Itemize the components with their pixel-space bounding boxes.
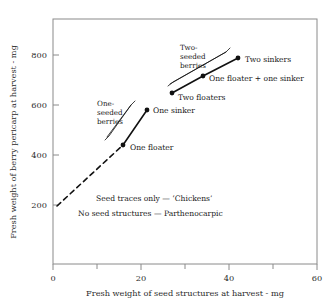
x-tick-label-40: 40 [224, 273, 234, 283]
bracket-label-two-seeded-line1: Two- [180, 43, 198, 52]
y-tick-label-400: 400 [31, 150, 47, 160]
point-two-floaters [170, 91, 175, 96]
scatter-chart: 800 600 400 200 0 20 40 60 Fresh weight … [0, 0, 325, 308]
point-one-floater [121, 143, 126, 148]
note-seed-traces: Seed traces only — ‘Chickens’ [96, 194, 212, 203]
bracket-label-two-seeded-line2: seeded [180, 52, 206, 61]
label-one-floater-one-sinker: One floater + one sinker [209, 74, 304, 83]
x-tick-label-0: 0 [50, 273, 55, 283]
point-one-floater-one-sinker [201, 74, 206, 79]
bracket-label-one-seeded-line3: berries [97, 117, 123, 126]
one-seeded-series-line [123, 110, 147, 145]
label-two-sinkers: Two sinkers [245, 55, 291, 64]
x-axis-title: Fresh weight of seed structures at harve… [86, 288, 284, 298]
y-tick-label-200: 200 [31, 200, 47, 210]
bracket-label-two-seeded-line3: berries [180, 61, 206, 70]
y-tick-label-600: 600 [31, 100, 47, 110]
note-parthenocarpic: No seed structures — Parthenocarpic [78, 209, 223, 218]
bracket-label-one-seeded-line1: One- [97, 99, 115, 108]
bracket-label-one-seeded-line2: seeded [97, 108, 123, 117]
point-one-sinker [145, 108, 150, 113]
x-tick-label-20: 20 [136, 273, 146, 283]
label-one-floater: One floater [130, 143, 174, 152]
label-two-floaters: Two floaters [178, 93, 226, 102]
point-two-sinkers [236, 56, 241, 61]
x-tick-label-60: 60 [312, 273, 322, 283]
y-tick-label-800: 800 [31, 50, 47, 60]
y-axis-title: Fresh weight of berry pericarp at harves… [8, 45, 18, 239]
chart-container: 800 600 400 200 0 20 40 60 Fresh weight … [0, 0, 325, 308]
label-one-sinker: One sinker [153, 106, 195, 115]
